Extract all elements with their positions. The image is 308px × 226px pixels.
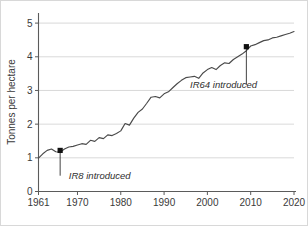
x-tick-label-2010: 2010: [240, 197, 263, 208]
chart-figure: 012345 1961197019801990200020102020 Tonn…: [0, 0, 308, 226]
y-tick-label-0: 0: [27, 186, 33, 197]
gridlines-group: [39, 23, 295, 158]
x-tick-labels-group: 1961197019801990200020102020: [27, 197, 305, 208]
y-tick-label-4: 4: [27, 51, 33, 62]
annotation-marker-ir8: [58, 148, 63, 153]
annotation-marker-ir64: [244, 44, 249, 49]
y-tick-label-1: 1: [27, 152, 33, 163]
y-tick-label-3: 3: [27, 85, 33, 96]
rice-yield-line-chart: 012345 1961197019801990200020102020 Tonn…: [1, 1, 308, 226]
x-tick-label-2020: 2020: [283, 197, 306, 208]
x-tick-label-1990: 1990: [153, 197, 176, 208]
annotation-label-ir64: IR64 introduced: [190, 79, 258, 90]
x-tick-label-1980: 1980: [110, 197, 133, 208]
annotations-group: IR8 introducedIR64 introduced: [58, 44, 258, 181]
y-axis-title: Tonnes per hectare: [6, 59, 17, 145]
x-tick-label-1961: 1961: [27, 197, 50, 208]
y-tick-labels-group: 012345: [27, 18, 33, 197]
y-tick-label-2: 2: [27, 119, 33, 130]
annotation-label-ir8: IR8 introduced: [69, 170, 132, 181]
y-tick-label-5: 5: [27, 18, 33, 29]
x-tick-label-1970: 1970: [66, 197, 89, 208]
x-tick-label-2000: 2000: [196, 197, 219, 208]
yield-series-line: [39, 32, 295, 159]
